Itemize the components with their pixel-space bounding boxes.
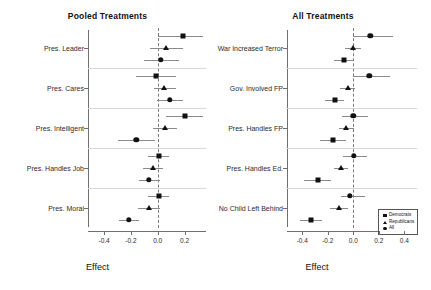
y-axis-tick (283, 48, 287, 49)
group-separator (88, 68, 206, 69)
estimate-marker-circle (134, 137, 139, 142)
plot-area (88, 28, 206, 228)
legend-item: Republicans (381, 219, 414, 225)
y-axis-category-label: Pres. Intelligent (36, 125, 84, 132)
estimate-marker-triangle (162, 125, 168, 130)
estimate-marker-square (341, 58, 346, 63)
y-axis-category-label: Pres. Leader (44, 45, 84, 52)
y-axis-tick (84, 88, 88, 89)
panel-all-treatments: All Treatments Effect Democrats Republic… (215, 0, 431, 290)
y-axis-category-label: No Child Left Behind (219, 205, 283, 212)
group-separator (88, 188, 206, 189)
estimate-marker-square (181, 34, 186, 39)
estimate-marker-circle (146, 177, 151, 182)
group-separator (287, 188, 417, 189)
estimate-marker-square (332, 98, 337, 103)
estimate-marker-circle (368, 33, 373, 38)
group-separator (88, 148, 206, 149)
y-axis-category-label: Pres. Handles Ed. (227, 165, 283, 172)
y-axis-tick (84, 208, 88, 209)
y-axis-tick (283, 128, 287, 129)
estimate-marker-square (182, 114, 187, 119)
x-axis-tick-label: 0.2 (180, 237, 189, 244)
legend-label: Democrats (389, 213, 411, 218)
estimate-marker-circle (167, 97, 172, 102)
estimate-marker-square (315, 178, 320, 183)
x-axis-title: Effect (209, 262, 425, 272)
estimate-marker-triangle (163, 45, 169, 50)
estimate-marker-square (157, 194, 162, 199)
y-axis-category-label: Pres. Cares (47, 85, 84, 92)
panel-title: All Treatments (215, 11, 431, 21)
x-axis-tick (185, 231, 186, 235)
y-axis-category-label: Pres. Handles Job (27, 165, 84, 172)
estimate-marker-triangle (161, 85, 167, 90)
legend-triangle-icon (381, 221, 389, 224)
x-axis-tick-label: 0.0 (153, 237, 162, 244)
x-axis-tick-label: -0.2 (125, 237, 136, 244)
x-axis-tick (131, 231, 132, 235)
x-axis-tick-label: 0.4 (400, 237, 409, 244)
x-axis-tick-label: -0.4 (297, 237, 308, 244)
group-separator (287, 108, 417, 109)
group-separator (287, 68, 417, 69)
legend-label: All (389, 226, 394, 231)
estimate-marker-triangle (336, 205, 342, 210)
estimate-marker-square (308, 218, 313, 223)
x-axis-tick (353, 231, 354, 235)
x-axis-tick (379, 231, 380, 235)
legend-square-icon (381, 214, 389, 217)
x-axis-tick (158, 231, 159, 235)
group-separator (88, 108, 206, 109)
x-axis-tick-label: -0.4 (98, 237, 109, 244)
estimate-marker-circle (347, 193, 352, 198)
forest-plot-figure: Pooled Treatments Effect Pres. LeaderPre… (0, 0, 431, 290)
x-axis-title: Effect (0, 262, 205, 272)
x-axis-tick (404, 231, 405, 235)
y-axis-category-label: Gov. Involved FP (230, 85, 283, 92)
legend: Democrats Republicans All (378, 209, 418, 235)
x-axis-tick-label: 0.0 (349, 237, 358, 244)
y-axis-tick (283, 88, 287, 89)
estimate-marker-triangle (150, 165, 156, 170)
legend-item: Democrats (381, 212, 414, 218)
estimate-marker-square (330, 138, 335, 143)
estimate-marker-triangle (345, 85, 351, 90)
y-axis-category-label: Pres. Moral (48, 205, 84, 212)
y-axis-tick (84, 128, 88, 129)
estimate-marker-circle (351, 113, 356, 118)
y-axis-tick (84, 48, 88, 49)
estimate-marker-circle (351, 153, 356, 158)
estimate-marker-triangle (338, 165, 344, 170)
x-axis-tick (328, 231, 329, 235)
x-axis-tick (302, 231, 303, 235)
estimate-marker-circle (158, 57, 163, 62)
x-axis-line (88, 231, 206, 232)
estimate-marker-circle (367, 73, 372, 78)
y-axis-category-label: Pres. Handles FP (228, 125, 283, 132)
group-separator (287, 148, 417, 149)
estimate-marker-square (154, 74, 159, 79)
x-axis-tick-label: 0.2 (374, 237, 383, 244)
estimate-marker-triangle (350, 45, 356, 50)
y-axis-tick (84, 168, 88, 169)
panel-pooled-treatments: Pooled Treatments Effect Pres. LeaderPre… (0, 0, 215, 290)
legend-label: Republicans (389, 220, 414, 225)
legend-item: All (381, 226, 414, 232)
legend-circle-icon (381, 227, 389, 230)
estimate-marker-triangle (343, 125, 349, 130)
plot-area (287, 28, 417, 228)
estimate-marker-circle (126, 217, 131, 222)
y-axis-category-label: War Increased Terror (218, 45, 283, 52)
y-axis-tick (283, 208, 287, 209)
panel-title: Pooled Treatments (0, 11, 215, 21)
confidence-interval-bar (341, 196, 366, 197)
x-axis-tick-label: -0.2 (322, 237, 333, 244)
y-axis-tick (283, 168, 287, 169)
confidence-interval-bar (353, 76, 390, 77)
estimate-marker-square (157, 154, 162, 159)
estimate-marker-triangle (146, 205, 152, 210)
x-axis-tick (104, 231, 105, 235)
